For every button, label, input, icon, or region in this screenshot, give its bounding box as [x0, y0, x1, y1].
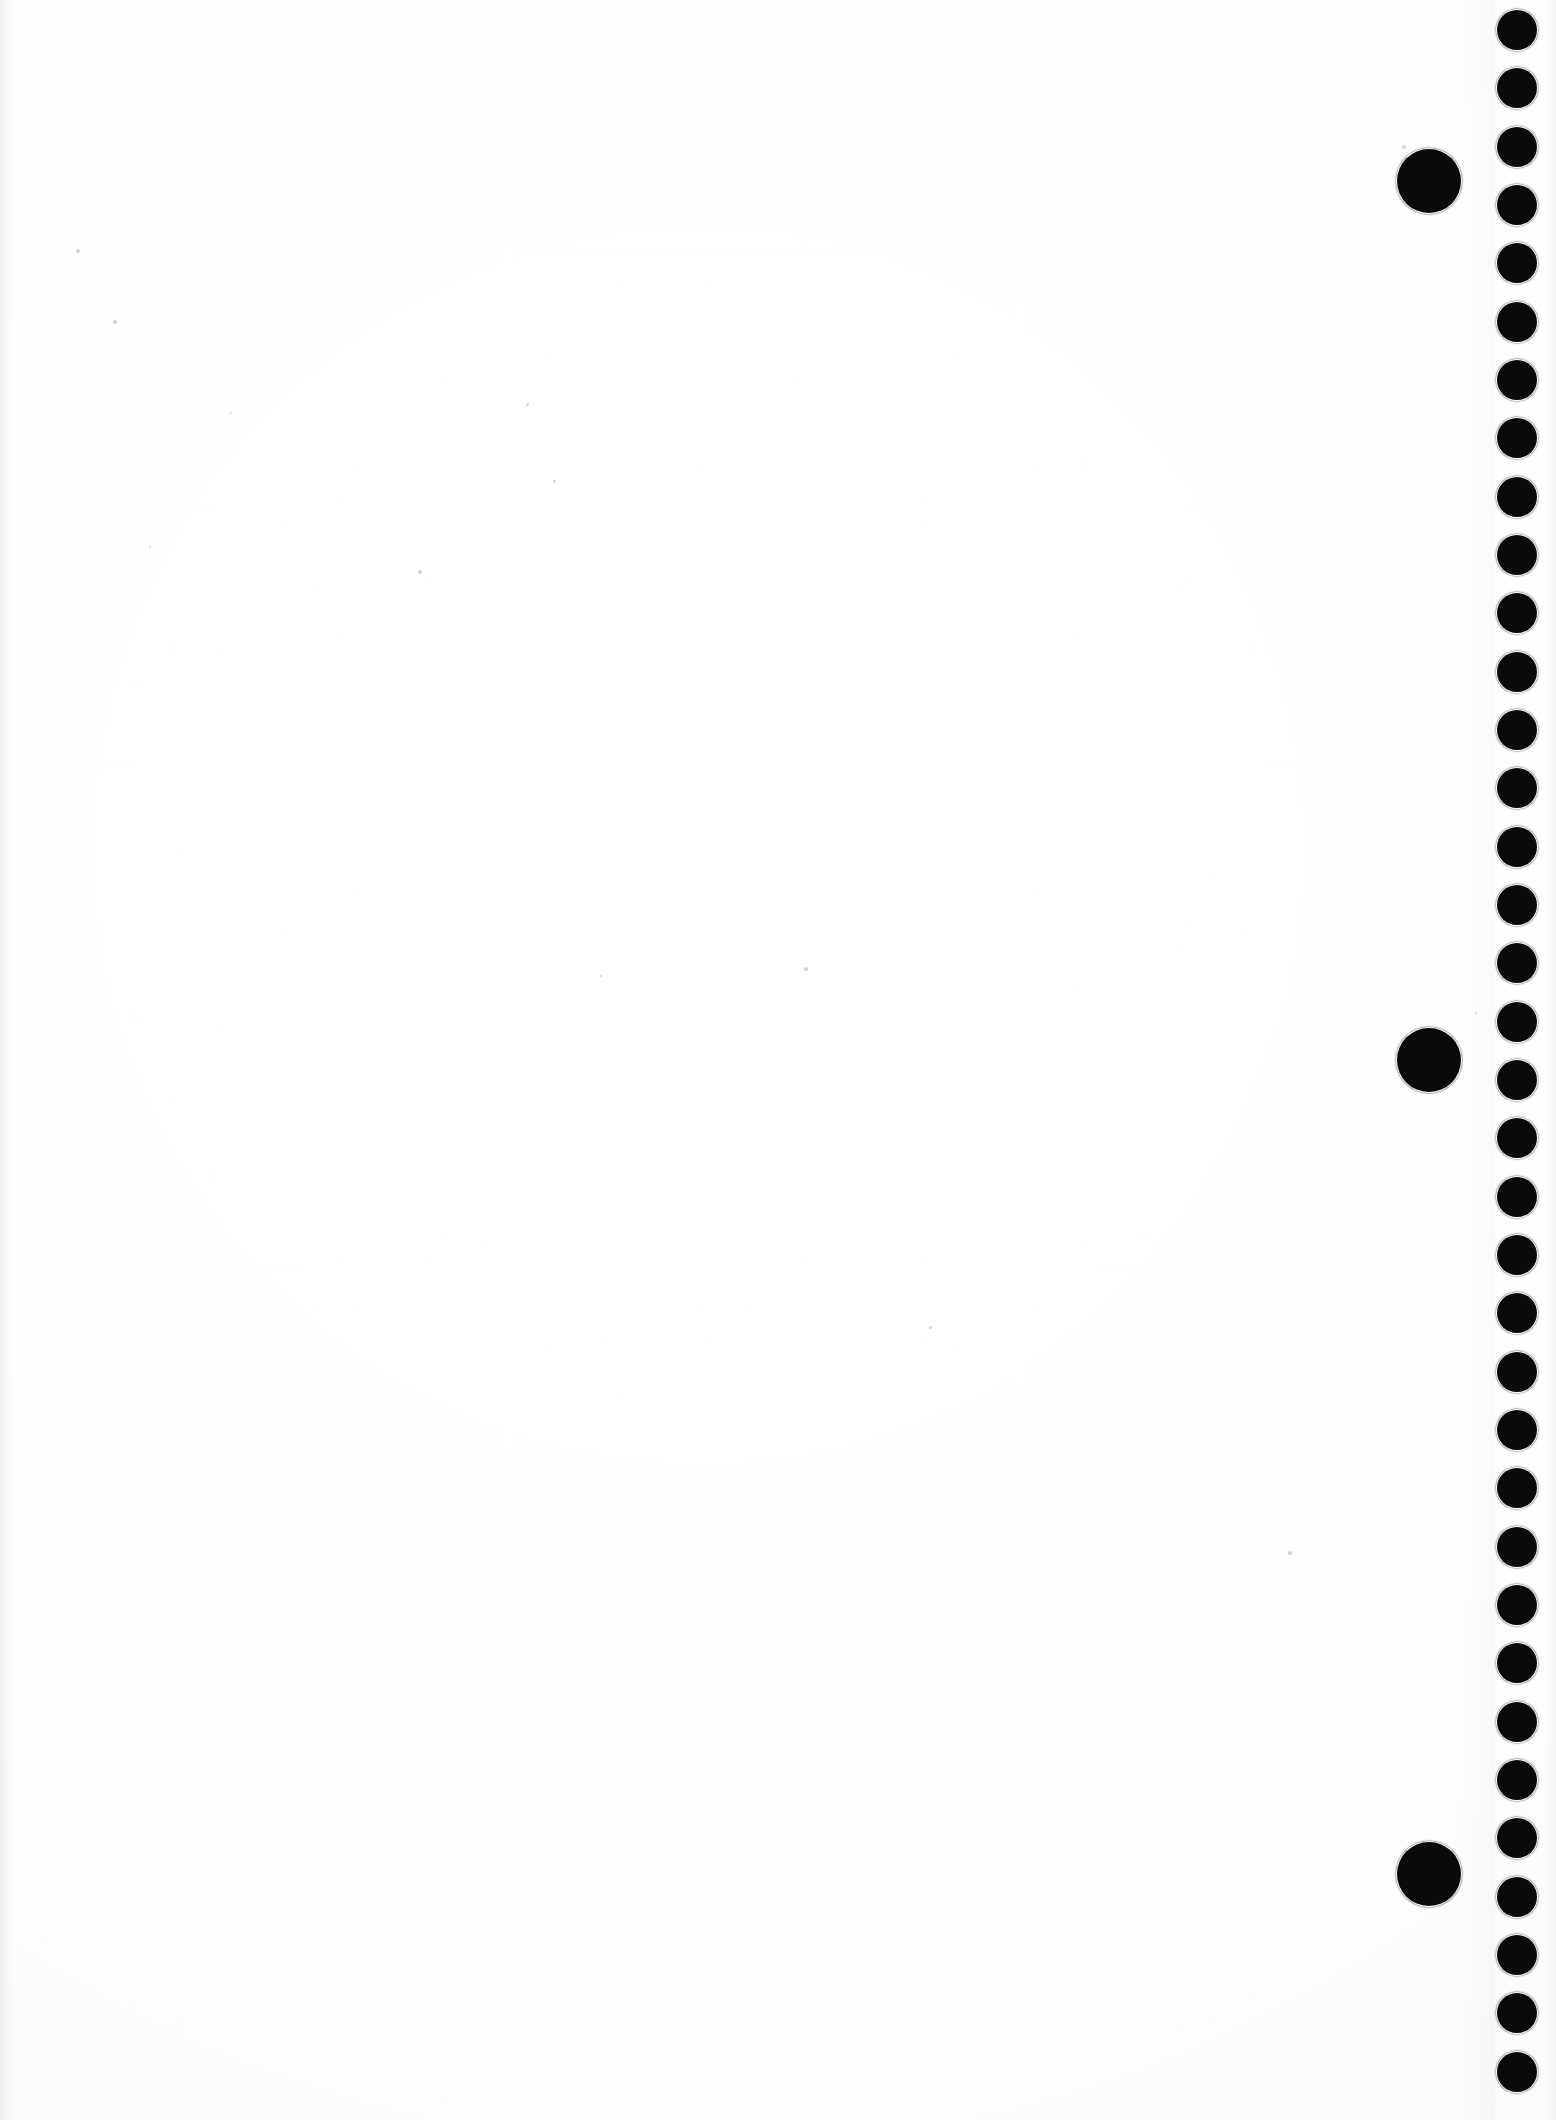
register-dot — [1397, 1028, 1461, 1092]
register-dot — [1397, 149, 1461, 213]
register-dot-column-large — [0, 0, 1556, 2120]
scanned-page-canvas — [0, 0, 1556, 2120]
register-dot — [1397, 1842, 1461, 1906]
